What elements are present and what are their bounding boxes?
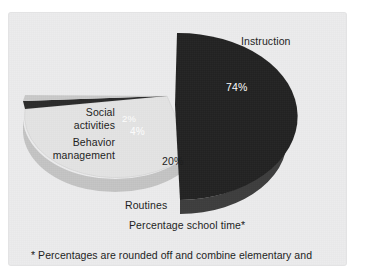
- value-label-routines: 20%: [162, 155, 183, 168]
- pie-chart-figure: Instruction Social activities Behavior m…: [0, 0, 369, 280]
- value-label-instruction: 74%: [226, 81, 247, 93]
- chart-caption: Percentage school time*: [129, 219, 245, 231]
- pie-slice-instruction: [175, 33, 298, 200]
- chart-panel: Instruction Social activities Behavior m…: [9, 13, 346, 265]
- label-routines: Routines: [125, 199, 167, 212]
- label-social-activities: Social activities: [45, 106, 115, 132]
- value-label-social-activities: 2%: [122, 113, 136, 125]
- label-behavior-management: Behavior management: [27, 136, 115, 162]
- pie-slice-instruction-group: [175, 33, 298, 214]
- chart-footnote: * Percentages are rounded off and combin…: [31, 248, 343, 265]
- label-instruction: Instruction: [241, 35, 291, 48]
- value-label-behavior-management: 4%: [130, 126, 145, 138]
